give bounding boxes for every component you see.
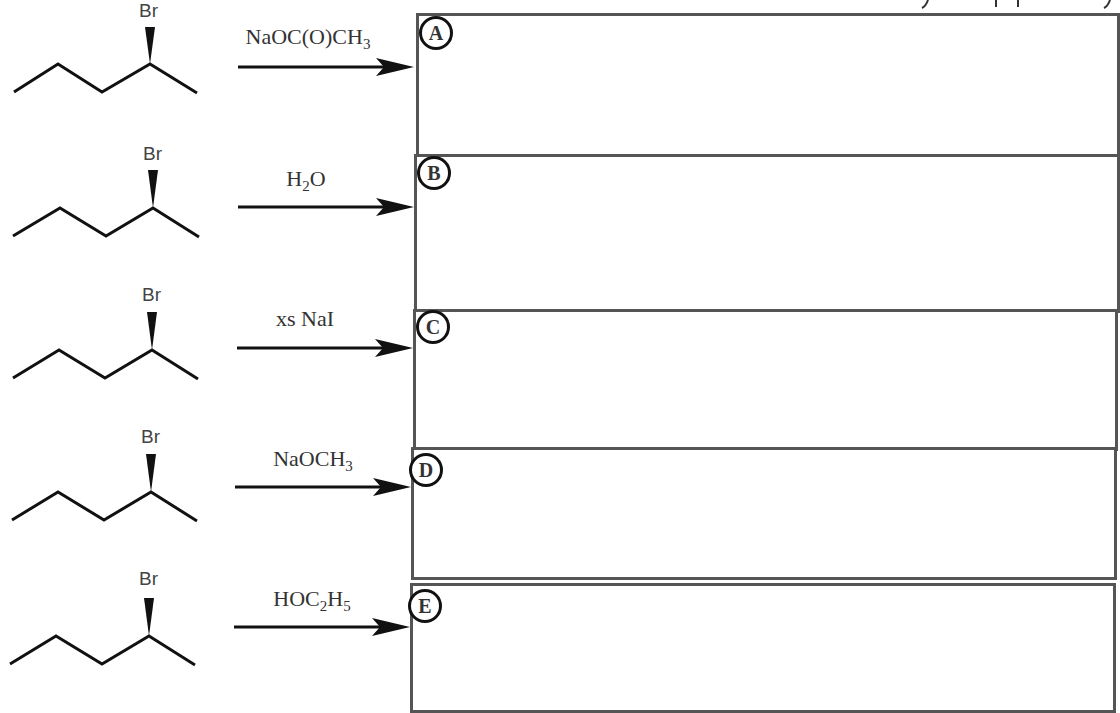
answer-box-e[interactable] — [410, 583, 1116, 713]
box-label-e: E — [408, 589, 442, 623]
reagent-label: xs NaI — [215, 306, 395, 332]
molecule-2-bromopentane — [0, 574, 230, 694]
box-label-a: A — [419, 16, 453, 50]
reaction-arrow-icon — [236, 192, 416, 222]
bromine-label: Br — [141, 426, 160, 448]
molecule-2-bromopentane — [0, 292, 230, 412]
answer-box-d[interactable] — [411, 447, 1117, 580]
reagent-label: NaOCH3 — [223, 446, 403, 472]
wedge-bond-icon — [144, 598, 154, 636]
bromine-label: Br — [139, 568, 158, 590]
answer-box-c[interactable] — [413, 309, 1118, 451]
box-label-c: C — [416, 310, 450, 344]
truncated-header-text — [700, 0, 1120, 10]
reagent-label: H2O — [216, 166, 396, 192]
reaction-arrow-icon — [233, 472, 413, 502]
reagent-label: HOC2H5 — [222, 586, 402, 612]
reaction-arrow-icon — [235, 333, 415, 363]
box-label-d: D — [409, 453, 443, 487]
wedge-bond-icon — [148, 170, 158, 208]
answer-box-b[interactable] — [414, 154, 1120, 313]
bromine-label: Br — [143, 143, 162, 165]
molecule-2-bromopentane — [0, 434, 230, 554]
wedge-bond-icon — [146, 454, 156, 492]
bromine-label: Br — [139, 0, 158, 22]
reagent-label: NaOC(O)CH3 — [218, 24, 398, 50]
wedge-bond-icon — [145, 27, 155, 64]
molecule-2-bromopentane — [0, 10, 230, 130]
bromine-label: Br — [142, 284, 161, 306]
reaction-arrow-icon — [236, 52, 416, 82]
molecule-2-bromopentane — [0, 152, 230, 272]
wedge-bond-icon — [147, 312, 157, 350]
reaction-arrow-icon — [232, 612, 412, 642]
answer-box-a[interactable] — [416, 13, 1120, 158]
box-label-b: B — [417, 156, 451, 190]
